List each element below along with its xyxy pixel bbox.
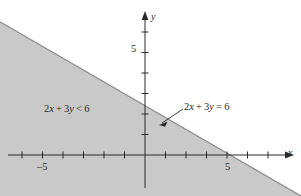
x-tick-label-minus-5: –5	[37, 162, 48, 173]
equation-label: 2x + 3y = 6	[184, 102, 229, 113]
inequality-plus: +	[56, 103, 62, 114]
y-tick-label-5: 5	[131, 44, 136, 55]
y-axis-label: y	[151, 12, 155, 22]
inequality-constant: 6	[84, 103, 89, 114]
inequality-var-x: x	[49, 103, 54, 114]
x-tick-label-5: 5	[225, 162, 230, 173]
equation-var-y: y	[209, 101, 214, 112]
inequality-relation: <	[76, 103, 82, 114]
inequality-graph-figure: y x 5 5 –5 2x + 3y < 6 2x + 3y = 6	[0, 0, 301, 196]
inequality-label: 2x + 3y < 6	[44, 104, 89, 115]
equation-var-x: x	[189, 101, 194, 112]
x-axis-label: x	[288, 148, 292, 158]
equation-relation: =	[216, 101, 222, 112]
equation-plus: +	[196, 101, 202, 112]
y-axis-arrowhead	[142, 11, 149, 20]
equation-constant: 6	[224, 101, 229, 112]
inequality-var-y: y	[69, 103, 74, 114]
